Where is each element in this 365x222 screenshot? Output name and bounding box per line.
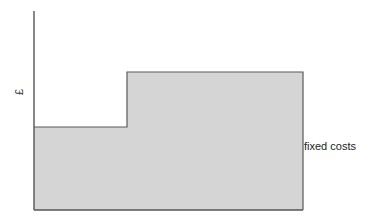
y-axis-label: £	[11, 73, 27, 111]
chart-figure: £ fixed costs	[0, 0, 365, 222]
fixed-costs-label: fixed costs	[304, 139, 356, 153]
stepped-fixed-costs-plot	[0, 0, 365, 222]
fixed-costs-step-area	[34, 72, 303, 210]
